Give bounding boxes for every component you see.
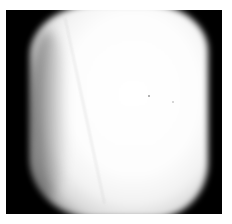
object-edge-shading	[28, 30, 68, 200]
photo-frame	[6, 10, 222, 214]
dark-speck	[172, 101, 174, 103]
dark-speck	[148, 95, 150, 97]
